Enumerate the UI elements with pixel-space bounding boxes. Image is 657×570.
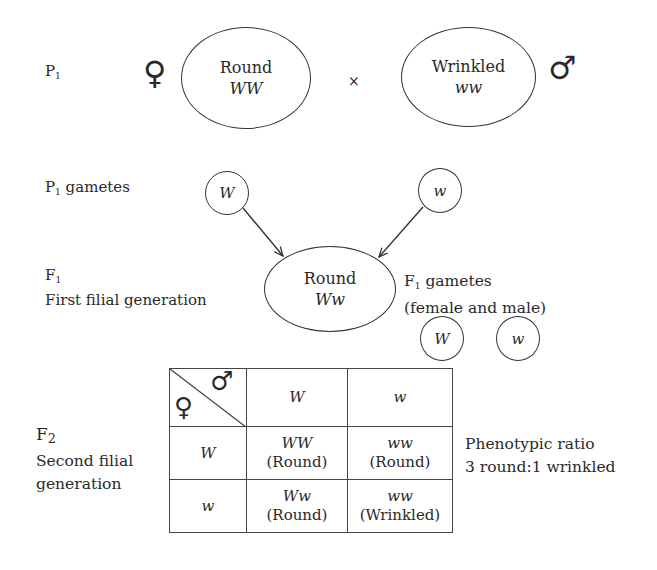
row-header-W: W <box>170 427 247 480</box>
cell-Ww-bottom: Ww (Round) <box>247 480 348 533</box>
phenotypic-ratio: Phenotypic ratio 3 round:1 wrinkled <box>465 433 616 479</box>
column-header-W: W <box>247 369 348 427</box>
cell-ww: ww (Wrinkled) <box>348 480 453 533</box>
column-header-w: w <box>348 369 453 427</box>
row-header-w: w <box>170 480 247 533</box>
cell-WW: WW (Round) <box>247 427 348 480</box>
f2-description-line2: generation <box>36 473 133 496</box>
f2-description-line1: Second filial <box>36 450 133 473</box>
p1-female-gamete: W <box>205 171 249 215</box>
f1-phenotype: Round <box>304 268 357 289</box>
f1-gametes-label: F1 gametes (female and male) <box>404 270 546 319</box>
female-parent-ellipse: Round WW <box>181 27 311 129</box>
f1-label: F1 First filial generation <box>45 265 207 310</box>
p1-male-gamete: w <box>418 168 462 213</box>
punnett-corner: ♀ ♂ <box>170 369 247 427</box>
male-symbol-icon: ♂ <box>548 50 577 86</box>
f1-genotype: Ww <box>315 289 345 310</box>
f1-gamete-w: w <box>496 316 540 361</box>
arrow-male-gamete-to-f1 <box>379 207 423 257</box>
f1-description: First filial generation <box>45 290 207 310</box>
cell-Ww-top: ww (Round) <box>348 427 453 480</box>
p1-gametes-label: P1 gametes <box>45 178 130 201</box>
corner-male-icon: ♂ <box>210 367 233 395</box>
male-parent-phenotype: Wrinkled <box>432 56 505 77</box>
female-symbol-icon: ♀ <box>143 55 166 91</box>
f1-offspring-ellipse: Round Ww <box>264 246 396 332</box>
p1-label: P1 <box>45 62 61 85</box>
corner-female-icon: ♀ <box>174 393 193 421</box>
male-parent-ellipse: Wrinkled ww <box>401 27 536 127</box>
f2-label: F2 Second filial generation <box>36 423 133 496</box>
cross-symbol: × <box>348 73 360 89</box>
f1-gamete-W: W <box>420 316 464 361</box>
punnett-square: ♀ ♂ W w W WW (Round) ww (Round) w Ww (Ro… <box>169 368 453 533</box>
male-parent-genotype: ww <box>455 77 482 98</box>
arrow-female-gamete-to-f1 <box>243 208 283 256</box>
female-parent-genotype: WW <box>230 78 263 99</box>
ratio-title: Phenotypic ratio <box>465 433 616 456</box>
ratio-value: 3 round:1 wrinkled <box>465 456 616 479</box>
f1-gametes-note: (female and male) <box>404 297 546 319</box>
female-parent-phenotype: Round <box>220 57 273 78</box>
